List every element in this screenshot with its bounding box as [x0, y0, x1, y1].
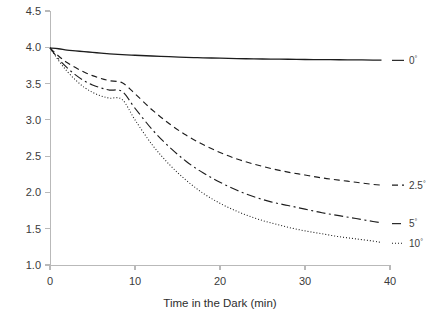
x-tick-label: 10 [129, 275, 141, 287]
y-axis-ticks: 1.01.52.02.53.03.54.04.5 [26, 5, 50, 271]
series-label-0: 0° [409, 55, 418, 66]
x-axis-title: Time in the Dark (min) [163, 297, 276, 309]
y-tick-label: 1.5 [26, 223, 41, 235]
x-tick-label: 20 [214, 275, 226, 287]
y-axis: 1.01.52.02.53.03.54.04.5 [26, 5, 51, 271]
y-tick-label: 4.0 [26, 41, 41, 53]
series-line-0 [50, 48, 382, 60]
series-legend: 0°2.5°5°10° [392, 55, 426, 249]
y-tick-label: 4.5 [26, 5, 41, 17]
series-label-5: 5° [409, 218, 418, 229]
line-chart: 1.01.52.02.53.03.54.04.5 010203040 0°2.5… [0, 0, 433, 320]
series-label-10: 10° [409, 238, 423, 249]
series-label-2-5: 2.5° [409, 180, 426, 191]
x-axis-ticks: 010203040 [47, 265, 396, 287]
y-tick-label: 2.0 [26, 186, 41, 198]
x-tick-label: 40 [384, 275, 396, 287]
y-tick-label: 3.0 [26, 114, 41, 126]
data-series-group [50, 48, 382, 242]
y-tick-label: 3.5 [26, 78, 41, 90]
y-tick-label: 1.0 [26, 259, 41, 271]
x-tick-label: 30 [299, 275, 311, 287]
series-line-5 [50, 48, 382, 223]
x-tick-label: 0 [47, 275, 53, 287]
chart-container: 1.01.52.02.53.03.54.04.5 010203040 0°2.5… [0, 0, 433, 320]
x-axis: 010203040 [47, 265, 396, 287]
series-line-2-5 [50, 48, 382, 185]
series-line-10 [50, 48, 382, 242]
y-tick-label: 2.5 [26, 150, 41, 162]
